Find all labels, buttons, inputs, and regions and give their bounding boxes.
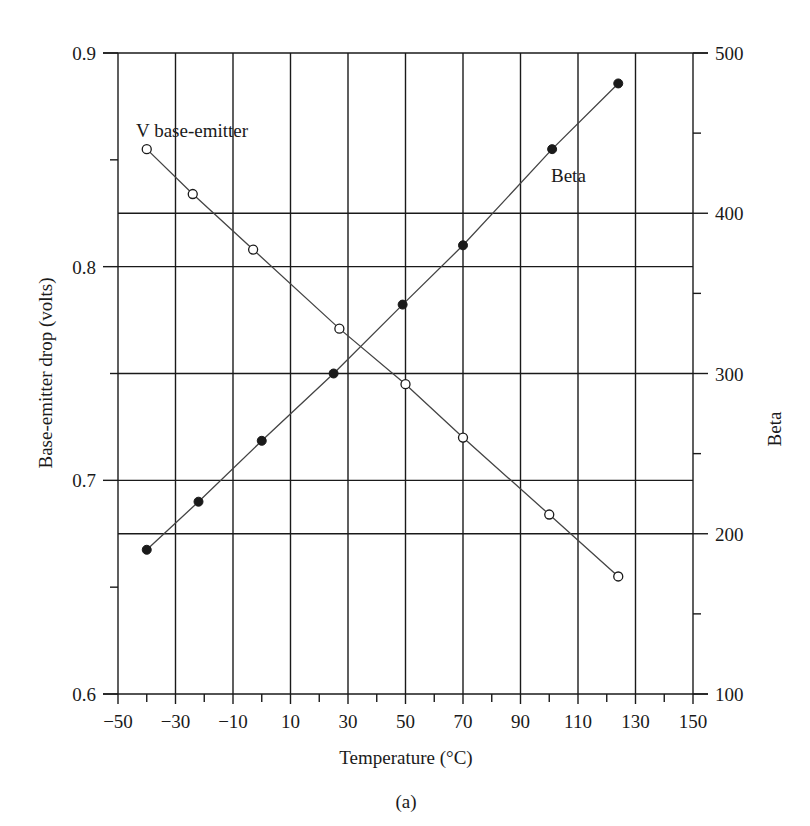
open-circle-marker [249,245,258,254]
open-circle-marker [459,433,468,442]
y2-tick-label: 300 [715,364,744,385]
filled-circle-marker [194,497,203,506]
filled-circle-marker [257,436,266,445]
x-axis-title: Temperature (°C) [339,747,472,769]
open-circle-marker [401,380,410,389]
chart-figure: 0.60.70.80.9100200300400500−50−30−101030… [0,0,810,826]
x-tick-label: 30 [339,711,358,732]
x-tick-label: 130 [621,711,650,732]
data-series [142,79,623,581]
x-tick-label: 70 [454,711,473,732]
filled-circle-marker [459,241,468,250]
y-tick-label: 0.8 [72,257,96,278]
x-tick-label: 50 [396,711,415,732]
open-circle-marker [335,324,344,333]
open-circle-marker [614,572,623,581]
y-axis-title-right: Beta [764,411,785,446]
open-circle-marker [545,510,554,519]
y-tick-label: 0.6 [72,684,96,705]
y-tick-label: 0.9 [72,43,96,64]
x-tick-label: 150 [679,711,708,732]
y2-tick-label: 200 [715,524,744,545]
x-tick-label: 110 [564,711,592,732]
y2-tick-label: 400 [715,203,744,224]
y-axis-title-left: Base-emitter drop (volts) [35,277,57,468]
x-tick-label: −10 [218,711,248,732]
y2-tick-label: 100 [715,684,744,705]
filled-circle-marker [548,145,557,154]
figure-caption: (a) [395,791,416,813]
filled-circle-marker [329,369,338,378]
annotation-beta: Beta [551,165,586,186]
filled-circle-marker [398,300,407,309]
grid-lines [118,53,693,704]
annotation-vbe: V base-emitter [136,120,249,141]
x-tick-label: 10 [281,711,300,732]
x-tick-label: 90 [511,711,530,732]
x-tick-label: −30 [161,711,191,732]
open-circle-marker [142,145,151,154]
x-tick-label: −50 [103,711,133,732]
y2-tick-label: 500 [715,43,744,64]
open-circle-marker [188,190,197,199]
filled-circle-marker [142,545,151,554]
filled-circle-marker [614,79,623,88]
y-tick-label: 0.7 [72,470,96,491]
